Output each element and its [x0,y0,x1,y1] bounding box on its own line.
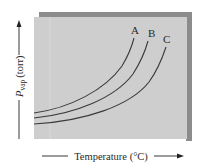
vapor-pressure-chart: A B C Pvap(torr) Temperature (°C) [0,0,198,168]
curve-label-c: C [163,33,170,45]
y-axis-label: Pvap(torr) [14,55,27,98]
curve-label-a: A [131,24,139,36]
y-axis-arrow-icon [17,20,22,27]
svg-text:Pvap(torr): Pvap(torr) [14,55,27,98]
x-axis-arrow-icon [177,154,184,159]
x-axis-label: Temperature (°C) [74,151,148,163]
curve-label-b: B [148,27,155,39]
